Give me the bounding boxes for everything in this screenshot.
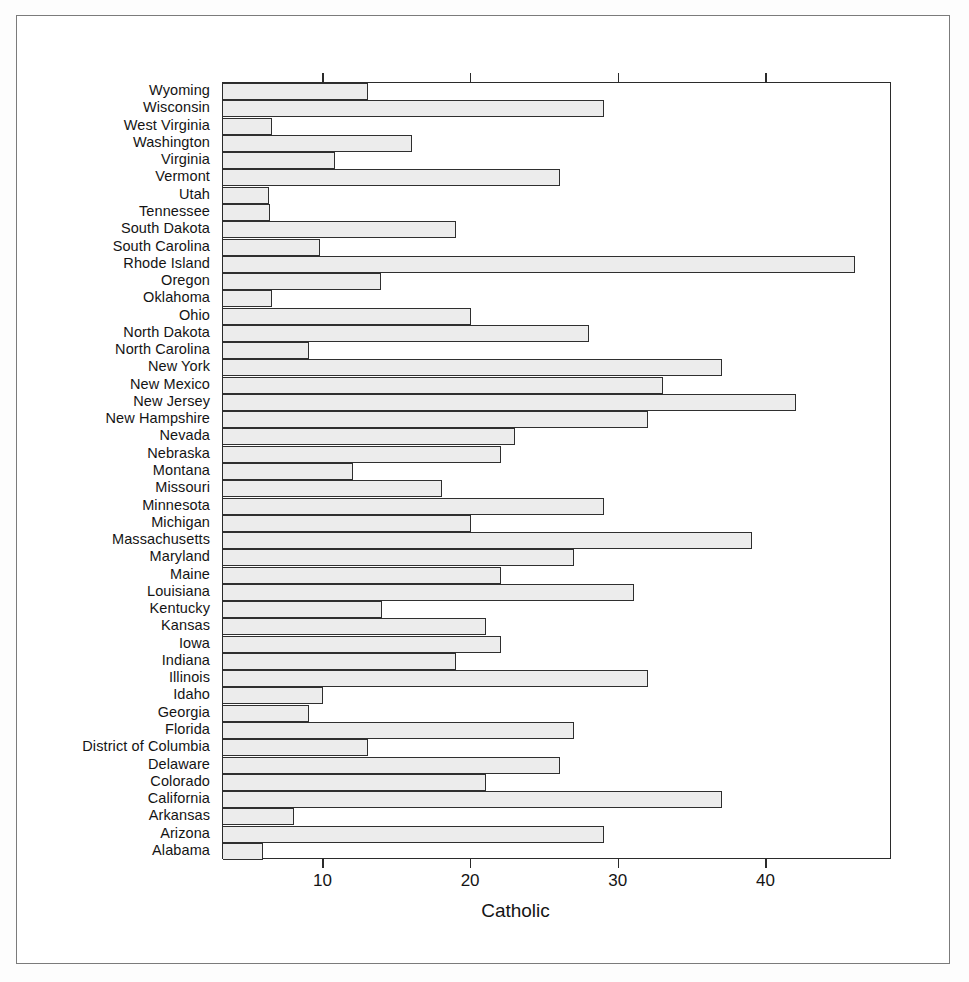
- x-tick-label: 10: [313, 871, 332, 891]
- category-label: Illinois: [169, 669, 210, 686]
- category-label: New Mexico: [130, 376, 210, 393]
- bar: [223, 636, 501, 653]
- bar: [223, 567, 501, 584]
- bar: [223, 256, 855, 273]
- y-axis-category-labels: WyomingWisconsinWest VirginiaWashingtonV…: [0, 82, 216, 859]
- bar: [223, 342, 309, 359]
- category-label: California: [148, 790, 210, 807]
- bar: [223, 135, 412, 152]
- category-label: District of Columbia: [82, 738, 210, 755]
- bar: [223, 705, 309, 722]
- bar: [223, 826, 604, 843]
- category-label: West Virginia: [124, 117, 210, 134]
- bar: [223, 221, 456, 238]
- bar: [223, 480, 442, 497]
- bar: [223, 791, 722, 808]
- category-label: New York: [148, 358, 210, 375]
- bar: [223, 411, 648, 428]
- category-label: Maine: [170, 566, 210, 583]
- bar: [223, 722, 574, 739]
- category-label: Kentucky: [150, 600, 210, 617]
- bar: [223, 687, 323, 704]
- bar: [223, 463, 353, 480]
- x-tick-top: [618, 73, 619, 82]
- x-tick-label: 40: [756, 871, 775, 891]
- category-label: Michigan: [151, 514, 210, 531]
- bar: [223, 532, 752, 549]
- category-label: North Dakota: [123, 324, 210, 341]
- category-label: Oregon: [161, 272, 210, 289]
- category-label: Missouri: [155, 479, 210, 496]
- x-tick-bottom: [470, 859, 471, 868]
- category-label: South Dakota: [121, 220, 210, 237]
- bar: [223, 584, 634, 601]
- x-tick-top: [765, 73, 766, 82]
- bar: [223, 653, 456, 670]
- x-tick-top: [322, 73, 323, 82]
- bar: [223, 169, 560, 186]
- bar: [223, 325, 589, 342]
- bar: [223, 601, 382, 618]
- bar: [223, 843, 263, 860]
- category-label: Tennessee: [139, 203, 210, 220]
- category-label: South Carolina: [113, 238, 210, 255]
- bar: [223, 273, 381, 290]
- bar: [223, 739, 368, 756]
- category-label: Wisconsin: [143, 99, 210, 116]
- category-label: Rhode Island: [123, 255, 210, 272]
- x-tick-bottom: [765, 859, 766, 868]
- category-label: Florida: [165, 721, 210, 738]
- bar: [223, 290, 272, 307]
- bar: [223, 549, 574, 566]
- x-axis-title-text: Catholic: [481, 900, 550, 922]
- category-label: Montana: [153, 462, 210, 479]
- bar: [223, 377, 663, 394]
- bar: [223, 308, 471, 325]
- bar: [223, 757, 560, 774]
- category-label: North Carolina: [115, 341, 210, 358]
- category-label: Alabama: [152, 842, 210, 859]
- category-label: Minnesota: [142, 497, 210, 514]
- category-label: Louisiana: [147, 583, 210, 600]
- bar: [223, 204, 270, 221]
- bar: [223, 394, 796, 411]
- bar: [223, 100, 604, 117]
- bar: [223, 618, 486, 635]
- x-tick-bottom: [322, 859, 323, 868]
- category-label: Idaho: [173, 686, 210, 703]
- bar: [223, 83, 368, 100]
- category-label: Nebraska: [147, 445, 210, 462]
- bar-series: [223, 83, 890, 858]
- category-label: Nevada: [159, 427, 210, 444]
- x-axis-title: Catholic: [0, 900, 969, 922]
- x-tick-label: 20: [461, 871, 480, 891]
- category-label: Vermont: [155, 168, 210, 185]
- bar: [223, 239, 320, 256]
- category-label: New Jersey: [133, 393, 210, 410]
- category-label: Utah: [179, 186, 210, 203]
- category-label: Maryland: [150, 548, 210, 565]
- x-tick-top: [470, 73, 471, 82]
- category-label: Ohio: [179, 307, 210, 324]
- plot-area: [222, 82, 891, 859]
- category-label: Oklahoma: [143, 289, 210, 306]
- category-label: Delaware: [148, 756, 210, 773]
- category-label: Virginia: [161, 151, 210, 168]
- category-label: New Hampshire: [106, 410, 210, 427]
- category-label: Colorado: [150, 773, 210, 790]
- category-label: Massachusetts: [112, 531, 210, 548]
- bar: [223, 359, 722, 376]
- chart-page: WyomingWisconsinWest VirginiaWashingtonV…: [0, 0, 969, 982]
- bar: [223, 808, 294, 825]
- category-label: Washington: [133, 134, 210, 151]
- category-label: Iowa: [179, 635, 210, 652]
- bar: [223, 670, 648, 687]
- category-label: Kansas: [161, 617, 210, 634]
- bar: [223, 152, 335, 169]
- bar: [223, 428, 515, 445]
- category-label: Arkansas: [149, 807, 210, 824]
- x-tick-bottom: [618, 859, 619, 868]
- bar: [223, 498, 604, 515]
- bar: [223, 446, 501, 463]
- category-label: Arizona: [160, 825, 210, 842]
